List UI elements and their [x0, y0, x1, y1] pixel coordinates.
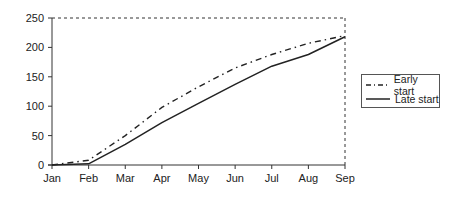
series-line-early-start	[52, 36, 345, 165]
y-axis: 050100150200250	[26, 12, 52, 171]
y-tick-label: 100	[26, 100, 44, 112]
x-tick-label: Feb	[79, 172, 98, 184]
y-tick-label: 50	[32, 130, 44, 142]
solid-line-icon	[365, 96, 391, 102]
x-tick-label: Sep	[335, 172, 355, 184]
dash-dot-line-icon	[365, 82, 390, 88]
y-tick-label: 150	[26, 71, 44, 83]
y-tick-label: 0	[38, 159, 44, 171]
x-tick-label: Jul	[265, 172, 279, 184]
series-line-late-start	[52, 37, 345, 165]
x-tick-label: Mar	[116, 172, 135, 184]
legend-item-late-start: Late start	[365, 92, 439, 106]
y-tick-label: 200	[26, 41, 44, 53]
y-tick-label: 250	[26, 12, 44, 24]
x-tick-label: May	[188, 172, 209, 184]
chart-legend: Early start Late start	[361, 74, 440, 108]
x-tick-label: Jan	[43, 172, 61, 184]
x-tick-label: Aug	[299, 172, 319, 184]
x-tick-label: Apr	[153, 172, 170, 184]
legend-item-early-start: Early start	[365, 78, 439, 92]
legend-label-late-start: Late start	[395, 93, 439, 105]
x-axis: JanFebMarAprMayJunJulAugSep	[43, 165, 355, 184]
series-layer	[52, 36, 345, 165]
plot-frame	[52, 18, 345, 165]
x-tick-label: Jun	[226, 172, 244, 184]
